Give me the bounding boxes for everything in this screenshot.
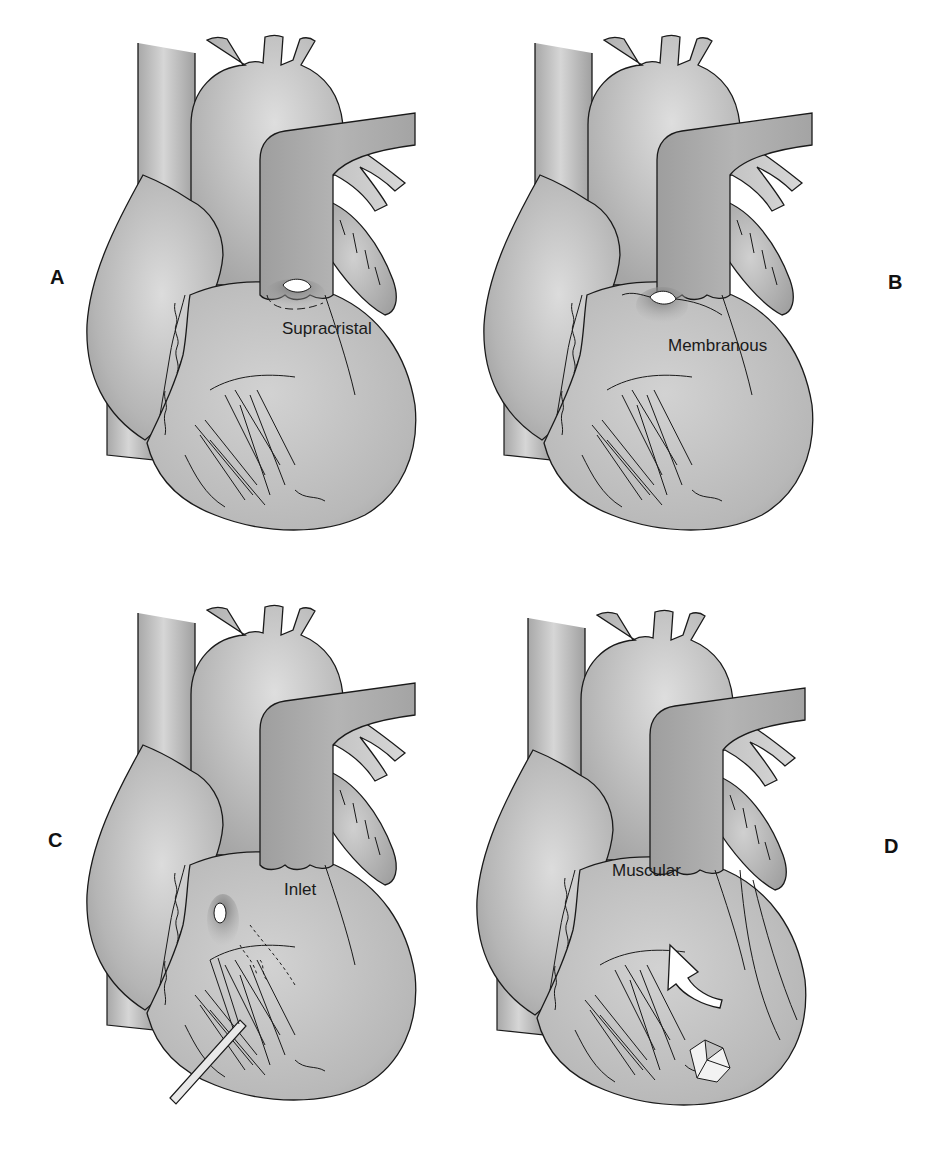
panel-d: D Muscular: [470, 580, 947, 1162]
heart-illustration-a: [0, 0, 470, 560]
heart-illustration-c: [0, 580, 470, 1162]
label-inlet: Inlet: [284, 881, 316, 898]
label-muscular: Muscular: [612, 862, 681, 879]
panel-letter-c: C: [48, 830, 62, 850]
heart-illustration-d: [470, 580, 947, 1162]
panel-a: A Supracristal: [0, 0, 470, 560]
label-supracristal: Supracristal: [282, 320, 372, 337]
panel-letter-d: D: [884, 836, 898, 856]
panel-c: C Inlet: [0, 580, 470, 1162]
panel-letter-b: B: [888, 272, 902, 292]
label-membranous: Membranous: [668, 337, 767, 354]
heart-illustration-b: [470, 0, 947, 560]
vsd-figure: A Supracristal B Membranous: [0, 0, 947, 1162]
panel-b: B Membranous: [470, 0, 947, 560]
panel-letter-a: A: [50, 267, 64, 287]
